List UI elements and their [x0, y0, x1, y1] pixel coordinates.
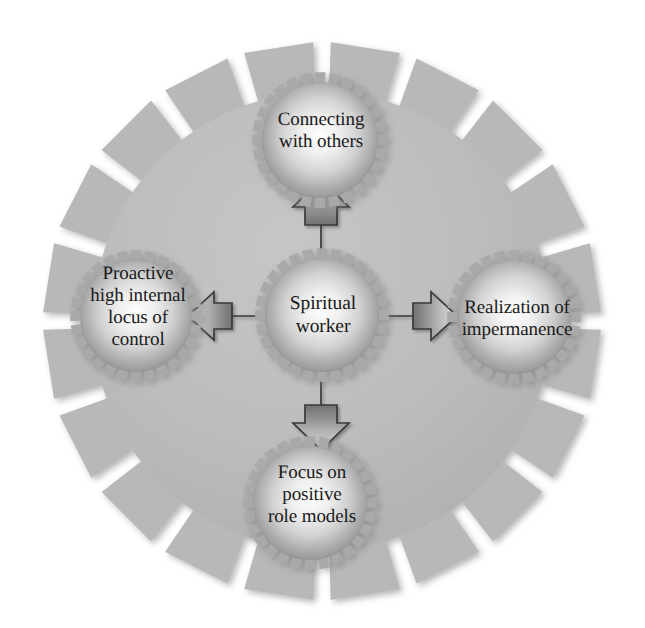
gear-realization-of-impermanence-body [459, 262, 570, 373]
gear-proactive-high-internal-locus-of-control-body [82, 262, 191, 371]
gear-diagram-canvas [0, 0, 645, 628]
gear-connecting-with-others-body [264, 84, 377, 197]
gear-diagram: Connecting with others Proactive high in… [0, 0, 645, 628]
gear-spiritual-worker-body [267, 260, 378, 371]
gear-focus-on-positive-role-models-body [255, 448, 366, 559]
